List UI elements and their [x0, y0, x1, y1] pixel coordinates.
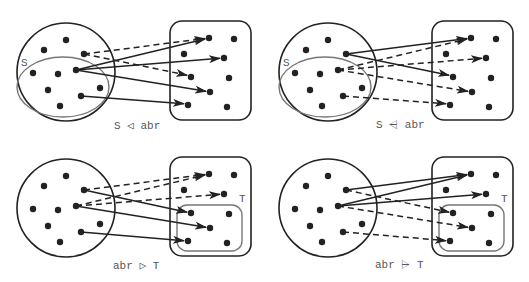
mapping-arrow-dashed [343, 232, 446, 241]
mapping-arrow-dashed [84, 39, 205, 54]
element-dot [307, 87, 313, 93]
element-dot [468, 171, 474, 177]
element-dot [97, 221, 103, 227]
element-dot [303, 183, 309, 189]
element-dot [317, 71, 323, 77]
element-dot [343, 187, 349, 193]
element-dot [226, 211, 232, 217]
element-dot [181, 187, 187, 193]
element-dot [488, 211, 494, 217]
element-dot [55, 207, 61, 213]
element-dot [81, 51, 87, 57]
panel-range-subtraction: T [279, 157, 513, 257]
element-dot [469, 225, 475, 231]
element-dot [231, 36, 237, 42]
element-dot [206, 171, 212, 177]
element-dot [359, 85, 365, 91]
element-dot [488, 75, 494, 81]
set-label: T [239, 193, 246, 205]
element-dot [292, 206, 298, 212]
element-dot [55, 71, 61, 77]
caption-domain-subtraction: S ⩤ abr [376, 119, 425, 131]
element-dot [493, 36, 499, 42]
element-dot [483, 55, 489, 61]
element-dot [45, 87, 51, 93]
relation-diagrams: SSTT [0, 0, 529, 282]
element-dot [335, 203, 341, 209]
element-dot [443, 187, 449, 193]
element-dot [343, 51, 349, 57]
mapping-arrow-solid [346, 175, 467, 190]
mapping-arrow-solid [81, 232, 184, 241]
element-dot [73, 203, 79, 209]
element-dot [325, 37, 331, 43]
element-dot [45, 223, 51, 229]
element-dot [30, 70, 36, 76]
element-dot [468, 35, 474, 41]
element-dot [30, 206, 36, 212]
element-dot [450, 74, 456, 80]
element-dot [359, 221, 365, 227]
element-dot [317, 207, 323, 213]
element-dot [340, 229, 346, 235]
set-label: S [283, 57, 290, 69]
element-dot [486, 104, 492, 110]
element-dot [319, 239, 325, 245]
panel-domain-restriction: S [17, 21, 251, 121]
element-dot [450, 210, 456, 216]
element-dot [335, 67, 341, 73]
mapping-arrow-dashed [84, 175, 205, 190]
element-dot [221, 191, 227, 197]
element-dot [307, 223, 313, 229]
element-dot [340, 93, 346, 99]
mapping-arrow-solid [81, 96, 184, 104]
element-dot [57, 239, 63, 245]
mapping-arrow-solid [346, 39, 467, 54]
caption-domain-restriction: S ◁ abr [114, 119, 160, 132]
set-label: S [21, 57, 28, 69]
element-dot [63, 37, 69, 43]
element-dot [78, 229, 84, 235]
element-dot [41, 183, 47, 189]
element-dot [181, 51, 187, 57]
set-label: T [501, 193, 508, 205]
mapping-arrow-solid [76, 70, 206, 91]
subset-S [279, 57, 371, 117]
panel-range-restriction: T [17, 157, 251, 257]
element-dot [493, 172, 499, 178]
caption-range-subtraction: abr ⩥ T [375, 259, 424, 271]
element-dot [221, 55, 227, 61]
panel-domain-subtraction: S [279, 21, 513, 121]
mapping-arrow-dashed [338, 70, 468, 91]
element-dot [206, 35, 212, 41]
element-dot [78, 93, 84, 99]
element-dot [443, 51, 449, 57]
element-dot [231, 172, 237, 178]
mapping-arrow-dashed [338, 206, 468, 227]
element-dot [73, 67, 79, 73]
element-dot [319, 103, 325, 109]
element-dot [224, 240, 230, 246]
element-dot [97, 85, 103, 91]
element-dot [292, 70, 298, 76]
element-dot [57, 103, 63, 109]
element-dot [185, 102, 191, 108]
element-dot [224, 104, 230, 110]
caption-range-restriction: abr ▷ T [113, 259, 159, 272]
element-dot [41, 47, 47, 53]
element-dot [63, 173, 69, 179]
element-dot [226, 75, 232, 81]
element-dot [325, 173, 331, 179]
element-dot [185, 238, 191, 244]
element-dot [447, 238, 453, 244]
element-dot [81, 187, 87, 193]
element-dot [188, 74, 194, 80]
element-dot [486, 240, 492, 246]
element-dot [207, 89, 213, 95]
mapping-arrow-dashed [343, 96, 446, 104]
element-dot [447, 102, 453, 108]
mapping-arrow-solid [76, 206, 206, 227]
element-dot [469, 89, 475, 95]
element-dot [188, 210, 194, 216]
element-dot [483, 191, 489, 197]
